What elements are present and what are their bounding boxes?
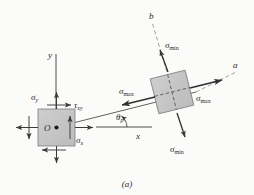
origin-point <box>54 125 58 129</box>
y-axis-label: y <box>47 50 52 60</box>
rotated-stress-element-group <box>150 70 194 114</box>
sigma-max-left-label: σmax <box>119 86 134 97</box>
sigma-min-bottom-label: σmin <box>170 144 184 155</box>
origin-label: O <box>44 123 51 133</box>
stress-element-figure: y x θp O σy σx <box>0 0 254 195</box>
sigma-max-arrow-right <box>190 80 222 88</box>
sigma-min-top-label: σmin <box>165 40 179 51</box>
figure-canvas: y x θp O σy σx <box>0 0 254 195</box>
x-axis-label: x <box>135 131 140 141</box>
sigma-min-arrow-bottom <box>177 113 185 137</box>
axis-b-label: b <box>149 11 154 21</box>
sigma-min-arrow-top <box>160 50 168 72</box>
axis-a-label: a <box>233 60 238 70</box>
tau-xy-label: τxy <box>74 100 83 111</box>
sigma-max-right-label: σmax <box>196 93 211 104</box>
figure-caption: (a) <box>0 179 254 189</box>
sigma-x-label: σx <box>76 135 83 146</box>
sigma-y-label: σy <box>31 92 38 103</box>
theta-p-label: θp <box>116 112 123 123</box>
